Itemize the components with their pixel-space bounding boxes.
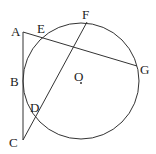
label-f: F (82, 7, 89, 22)
label-c: C (9, 135, 18, 150)
label-g: G (140, 62, 149, 77)
label-d: D (30, 100, 39, 115)
label-b: B (10, 74, 19, 89)
label-e: E (37, 21, 45, 36)
geometry-diagram: A E F G O B D C (0, 0, 156, 154)
label-o: O (74, 69, 83, 84)
segment-ag (23, 32, 137, 66)
label-a: A (11, 24, 21, 39)
